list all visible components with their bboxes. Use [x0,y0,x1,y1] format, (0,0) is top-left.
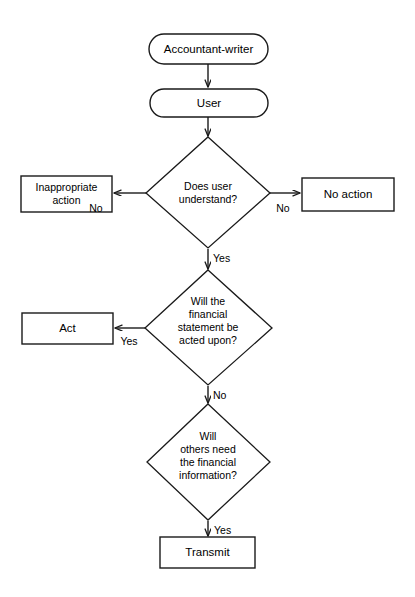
edge-label-acted-upon-down-no: No [213,389,227,401]
decision-others-need-line3: the financial [180,456,236,468]
decision-understand-line2: understand? [179,193,238,205]
decision-acted-upon-line3: statement be [178,321,239,333]
node-inappropriate-action-label-line2: action [52,194,80,206]
edge-label-understand-right-no: No [276,202,290,214]
decision-others-need-line2: others need [180,443,236,455]
decision-acted-upon-line2: financial [189,308,228,320]
decision-acted-upon-line1: Will the [191,295,226,307]
decision-understand-line1: Does user [184,180,232,192]
flowchart-canvas: Accountant-writer User Does user underst… [0,0,415,597]
edge-label-understand-left-no: No [89,202,103,214]
decision-acted-upon-line4: acted upon? [179,334,237,346]
node-no-action-label: No action [324,188,373,200]
flowchart-svg: Accountant-writer User Does user underst… [0,0,415,597]
edge-label-acted-upon-left-yes: Yes [120,335,137,347]
node-user-label: User [197,97,221,109]
edge-label-others-need-down-yes: Yes [214,524,231,536]
decision-others-need-line4: information? [179,469,237,481]
edge-label-understand-down-yes: Yes [213,252,230,264]
decision-others-need-line1: Will [200,430,217,442]
node-accountant-writer-label: Accountant-writer [164,43,254,55]
node-inappropriate-action-label-line1: Inappropriate [36,181,98,193]
node-act-label: Act [59,322,76,334]
node-transmit-label: Transmit [185,546,230,558]
